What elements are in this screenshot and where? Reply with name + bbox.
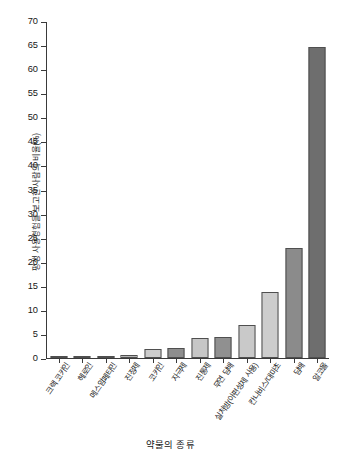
y-tick-label: 40 — [14, 160, 38, 170]
y-tick: 35 — [41, 191, 46, 192]
bar-slot — [282, 22, 306, 358]
y-tick: 50 — [41, 118, 46, 119]
y-tick-label: 5 — [14, 329, 38, 339]
y-tick-label: 15 — [14, 281, 38, 291]
plot-area: 0510152025303540455055606570 — [46, 22, 329, 359]
bar[interactable] — [168, 348, 185, 358]
bar-slot — [141, 22, 165, 358]
y-tick-label: 50 — [14, 112, 38, 122]
x-tick-label: 진정제 — [122, 360, 143, 383]
y-tick-label: 30 — [14, 209, 38, 219]
y-tick-label: 0 — [14, 353, 38, 363]
x-tick-label: 자극제 — [169, 360, 190, 383]
y-tick: 25 — [41, 239, 46, 240]
y-tick: 45 — [41, 142, 46, 143]
bar-slot — [165, 22, 189, 358]
y-tick-label: 10 — [14, 305, 38, 315]
y-tick: 65 — [41, 46, 46, 47]
y-tick-label: 70 — [14, 16, 38, 26]
y-tick: 70 — [41, 22, 46, 23]
y-tick-label: 20 — [14, 257, 38, 267]
bar-slot — [306, 22, 330, 358]
bar[interactable] — [50, 356, 67, 358]
y-tick-label: 45 — [14, 136, 38, 146]
bar[interactable] — [285, 248, 302, 358]
x-tick-label: 담배 — [290, 360, 307, 377]
bar-slot — [235, 22, 259, 358]
y-tick: 60 — [41, 70, 46, 71]
bar[interactable] — [97, 356, 114, 358]
bar[interactable] — [144, 349, 161, 358]
y-tick: 5 — [41, 335, 46, 336]
bar[interactable] — [215, 337, 232, 358]
bar-slot — [212, 22, 236, 358]
x-axis-line — [46, 358, 329, 359]
y-tick-label: 35 — [14, 185, 38, 195]
bar[interactable] — [238, 325, 255, 358]
y-tick-label: 55 — [14, 88, 38, 98]
x-tick-label: 헤로인 — [75, 360, 96, 383]
bar[interactable] — [309, 47, 326, 358]
x-tick-label: 크랙 코카인 — [42, 360, 72, 396]
x-axis-title: 약물의 종류 — [0, 437, 341, 451]
y-tick: 30 — [41, 215, 46, 216]
bar-slot — [259, 22, 283, 358]
y-tick: 55 — [41, 94, 46, 95]
bar[interactable] — [74, 356, 91, 358]
bar-slot — [118, 22, 142, 358]
x-tick-label: 코카인 — [145, 360, 166, 383]
x-axis-labels: 크랙 코카인헤로인메스암페타민진정제코카인자극제진통제무연 담배실처방(아편성제… — [46, 360, 329, 432]
y-tick-label: 65 — [14, 40, 38, 50]
y-tick: 20 — [41, 263, 46, 264]
bar-slot — [47, 22, 71, 358]
x-tick-label: 진통제 — [192, 360, 213, 383]
bar[interactable] — [121, 355, 138, 358]
bar-slot — [188, 22, 212, 358]
y-tick: 15 — [41, 287, 46, 288]
y-tick-label: 60 — [14, 64, 38, 74]
bar[interactable] — [262, 292, 279, 358]
x-tick-label: 알코올 — [310, 360, 331, 383]
bar-slot — [71, 22, 95, 358]
y-tick: 10 — [41, 311, 46, 312]
bar[interactable] — [191, 338, 208, 358]
bar-slot — [94, 22, 118, 358]
y-tick-label: 25 — [14, 233, 38, 243]
bars-layer — [47, 22, 329, 358]
y-tick: 40 — [41, 166, 46, 167]
bar-chart: 평생 사용경험을 보고한 사람의 비율(%) 05101520253035404… — [0, 0, 341, 464]
